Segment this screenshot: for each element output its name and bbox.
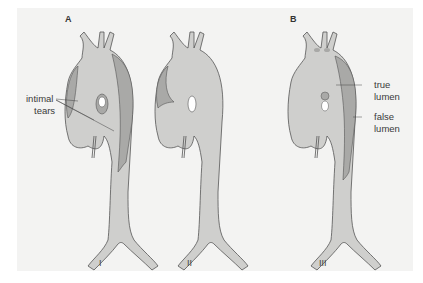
aorta-type-2: [155, 32, 248, 270]
type-numeral-1: I: [99, 258, 102, 269]
panel-label-a: A: [65, 14, 72, 25]
label-intimal: intimal: [26, 93, 53, 104]
type-numeral-3: III: [319, 258, 327, 269]
label-true-lumen: lumen: [374, 91, 400, 102]
label-true: true: [374, 79, 390, 90]
aorta-type-3: [288, 32, 381, 270]
type-numeral-2: II: [187, 258, 192, 269]
label-tears: tears: [34, 105, 55, 116]
label-false-lumen: lumen: [374, 123, 400, 134]
panel-label-b: B: [290, 14, 297, 25]
aorta-diagram: [0, 0, 423, 283]
aorta-type-1: [65, 32, 158, 270]
label-false: false: [374, 111, 394, 122]
